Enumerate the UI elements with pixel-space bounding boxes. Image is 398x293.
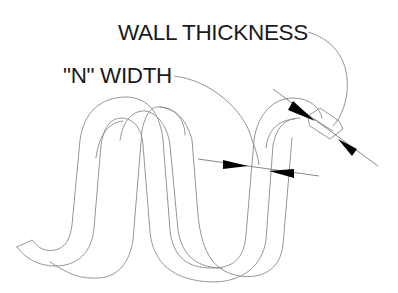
strip-front-layer (17, 97, 322, 282)
wall-thickness-arrow-lower-icon (338, 139, 357, 156)
wall-thickness-dimension (273, 89, 378, 166)
n-width-label: "N" WIDTH (63, 63, 172, 88)
n-width-arrow-left-icon (223, 160, 248, 169)
serpentine-strip-diagram: WALL THICKNESS "N" WIDTH (0, 0, 398, 293)
wall-section-box (308, 108, 343, 139)
n-width-arrow-right-icon (269, 169, 294, 178)
wall-thickness-label: WALL THICKNESS (118, 20, 308, 45)
wall-thickness-arrow-upper-icon (288, 101, 315, 121)
n-width-leader (174, 76, 259, 165)
